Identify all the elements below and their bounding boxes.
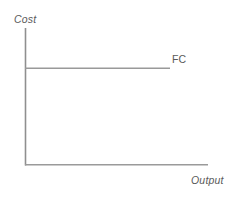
y-axis-label: Cost: [14, 13, 36, 25]
chart-plot-area: [0, 0, 236, 197]
fixed-cost-chart: Cost Output FC: [0, 0, 236, 197]
x-axis-label: Output: [191, 174, 224, 186]
fixed-cost-series-label: FC: [172, 53, 186, 65]
